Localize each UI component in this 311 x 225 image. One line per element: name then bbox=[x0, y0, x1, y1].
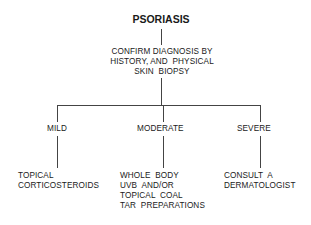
branch-moderate-label: MODERATE bbox=[137, 124, 184, 135]
treatment-mild-line: CORTICOSTEROIDS bbox=[18, 181, 99, 192]
connector-mild-up bbox=[57, 105, 58, 122]
treatment-moderate-line: UVB AND/OR bbox=[120, 181, 174, 192]
branch-bar bbox=[57, 105, 261, 106]
connector-root bbox=[161, 29, 162, 45]
treatment-moderate-line: WHOLE BODY bbox=[120, 171, 179, 182]
root-node: PSORIASIS bbox=[0, 13, 311, 25]
treatment-severe-line: DERMATOLOGIST bbox=[224, 181, 296, 192]
treatment-severe-line: CONSULT A bbox=[224, 171, 273, 182]
diagnosis-line-1: CONFIRM DIAGNOSIS BY bbox=[102, 47, 222, 58]
connector-moderate-up bbox=[163, 105, 164, 122]
branch-mild-label: MILD bbox=[47, 124, 67, 135]
treatment-mild-line: TOPICAL bbox=[18, 171, 54, 182]
connector-mild-down bbox=[57, 136, 58, 168]
connector-severe-up bbox=[260, 105, 261, 122]
connector-diagnosis bbox=[161, 78, 162, 105]
branch-severe-label: SEVERE bbox=[237, 124, 271, 135]
connector-moderate-down bbox=[163, 136, 164, 168]
treatment-moderate-line: TAR PREPARATIONS bbox=[120, 201, 205, 212]
diagnosis-line-3: SKIN BIOPSY bbox=[102, 67, 222, 78]
diagnosis-line-2: HISTORY, AND PHYSICAL bbox=[102, 57, 222, 68]
treatment-moderate-line: TOPICAL COAL bbox=[120, 191, 183, 202]
connector-severe-down bbox=[260, 136, 261, 168]
